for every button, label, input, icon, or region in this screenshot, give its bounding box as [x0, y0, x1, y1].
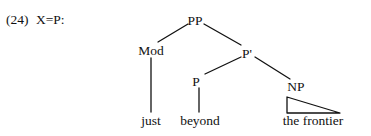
tree-leaf-p-word: beyond [180, 113, 220, 129]
branch-pbar-np [255, 57, 290, 79]
tree-leaf-mod-word: just [141, 113, 161, 129]
tree-leaf-np-phrase: the frontier [283, 113, 343, 129]
np-triangle [287, 97, 340, 113]
tree-node-p-bar: P' [242, 46, 252, 62]
tree-node-mod: Mod [138, 43, 164, 59]
tree-node-pp: PP [187, 13, 202, 29]
branch-pp-mod [158, 24, 188, 42]
tree-node-np: NP [287, 79, 304, 95]
branch-pp-pbar [204, 24, 241, 45]
syntax-tree-figure: (24) X=P: PP Mod P' P NP just beyond the… [0, 0, 371, 136]
tree-node-p: P [192, 74, 200, 90]
branch-pbar-p [205, 57, 241, 74]
